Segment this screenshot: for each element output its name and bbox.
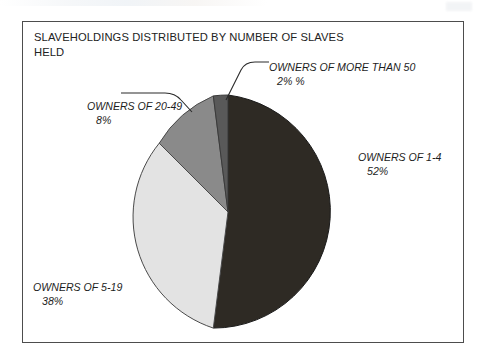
callout-owners-of-20-49: OWNERS OF 20-49 8% <box>87 100 182 127</box>
callout-label-1-4: OWNERS OF 1-4 <box>358 151 441 163</box>
callout-percent-5-19: 38% <box>33 295 122 309</box>
callout-owners-of-5-19: OWNERS OF 5-19 38% <box>33 281 122 308</box>
callout-label-5-19: OWNERS OF 5-19 <box>33 281 122 293</box>
scan-artifact-smudge <box>446 2 472 11</box>
callout-owners-of-1-4: OWNERS OF 1-4 52% <box>358 151 441 178</box>
callout-percent-1-4: 52% <box>358 165 441 179</box>
callout-label-more-than-50: OWNERS OF MORE THAN 50 <box>269 61 415 73</box>
scan-artifact-band <box>0 0 486 6</box>
pie-slice-owners-of-1-4 <box>213 95 330 328</box>
callout-percent-more-than-50: 2% % <box>269 75 415 89</box>
callout-percent-20-49: 8% <box>87 114 182 128</box>
chart-frame: SLAVEHOLDINGS DISTRIBUTED BY NUMBER OF S… <box>22 21 464 343</box>
leader-line-more-than-50 <box>226 62 269 100</box>
callout-owners-of-more-than-50: OWNERS OF MORE THAN 50 2% % <box>269 61 415 88</box>
callout-label-20-49: OWNERS OF 20-49 <box>87 100 182 112</box>
